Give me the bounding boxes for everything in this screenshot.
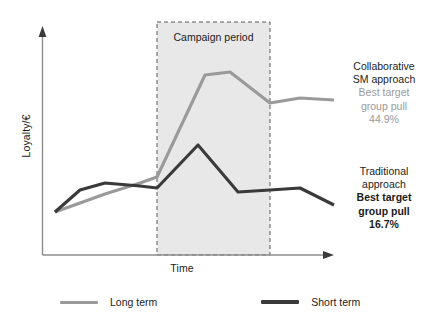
legend-swatch-short-term <box>261 300 299 304</box>
y-axis-title: Loyalty/€ <box>20 96 32 176</box>
chart-plot-area <box>0 0 434 324</box>
chart-legend: Long term Short term <box>60 296 360 308</box>
x-axis-title: Time <box>152 262 212 274</box>
legend-item-long-term: Long term <box>60 296 157 308</box>
annotation-traditional-title-line2: approach <box>336 178 432 191</box>
legend-label-long-term: Long term <box>110 296 157 308</box>
annotation-traditional-detail-line2: group pull <box>336 205 432 218</box>
x-axis-arrow-icon <box>323 251 334 259</box>
annotation-collaborative-title-line2: SM approach <box>336 73 432 86</box>
y-axis-arrow-icon <box>39 26 47 37</box>
legend-label-short-term: Short term <box>311 296 360 308</box>
annotation-traditional-title-line1: Traditional <box>336 165 432 178</box>
annotation-collaborative-detail-line2: group pull <box>336 100 432 113</box>
chart-figure: Campaign period Loyalty/€ Time Collabora… <box>0 0 434 324</box>
campaign-period-label: Campaign period <box>157 31 270 43</box>
annotation-collaborative-value: 44.9% <box>336 113 432 126</box>
annotation-traditional: Traditional approach Best target group p… <box>336 165 432 231</box>
annotation-collaborative-detail-line1: Best target <box>336 86 432 99</box>
annotation-collaborative-sm: Collaborative SM approach Best target gr… <box>336 60 432 126</box>
annotation-traditional-value: 16.7% <box>336 218 432 231</box>
annotation-collaborative-title-line1: Collaborative <box>336 60 432 73</box>
legend-swatch-long-term <box>60 301 98 304</box>
annotation-traditional-detail-line1: Best target <box>336 191 432 204</box>
legend-item-short-term: Short term <box>261 296 360 308</box>
